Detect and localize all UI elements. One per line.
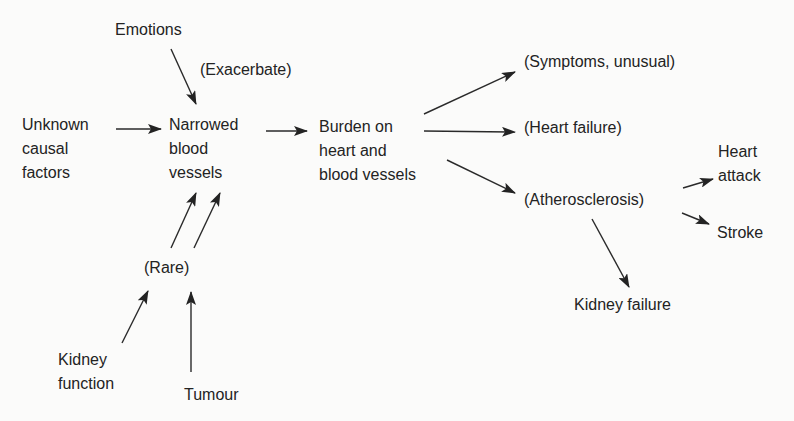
node-tumour: Tumour [184,383,239,407]
node-heart-attack: Heart attack [718,140,761,188]
edge-label-exacerbate: (Exacerbate) [200,58,292,82]
arrow-emotions-to-narrowed [171,49,196,104]
node-burden-on-heart: Burden on heart and blood vessels [319,115,416,187]
node-heart-failure: (Heart failure) [524,116,622,140]
node-stroke: Stroke [717,221,763,245]
node-kidney-function: Kidney function [58,348,114,396]
node-symptoms-unusual: (Symptoms, unusual) [524,50,675,74]
node-narrowed-blood-vessels: Narrowed blood vessels [169,113,238,185]
arrow-burden-to-heart-failure [424,131,515,132]
node-unknown-causal-factors: Unknown causal factors [22,113,89,185]
arrow-burden-to-atherosclerosis [447,160,515,193]
node-kidney-failure: Kidney failure [574,293,671,317]
arrow-rare-to-narrowed-2 [194,193,220,248]
arrow-burden-to-symptoms [424,72,515,114]
arrow-atherosclerosis-to-kidney-failure [592,219,629,287]
node-rare: (Rare) [144,256,189,280]
arrow-atherosclerosis-to-stroke [682,213,709,224]
node-emotions: Emotions [115,18,182,42]
arrow-kidney-function-to-rare [122,291,148,343]
arrow-rare-to-narrowed-1 [171,193,196,248]
node-atherosclerosis: (Atherosclerosis) [524,188,644,212]
arrow-atherosclerosis-to-heart-attack [683,179,713,188]
